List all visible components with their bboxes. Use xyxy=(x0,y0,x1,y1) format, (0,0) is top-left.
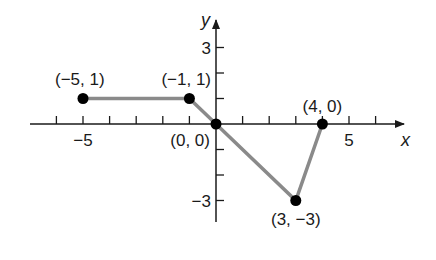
x-tick-label: 5 xyxy=(344,131,353,150)
x-tick-label: −5 xyxy=(73,131,92,150)
point-label: (−5, 1) xyxy=(55,70,105,89)
axes: x y xyxy=(30,10,411,222)
point-label: (0, 0) xyxy=(170,131,210,150)
x-axis-label: x xyxy=(400,130,411,150)
data-point xyxy=(184,93,195,104)
data-point xyxy=(78,93,89,104)
data-point xyxy=(317,119,328,130)
point-label: (3, −3) xyxy=(271,210,321,229)
data-point xyxy=(211,119,222,130)
point-label: (−1, 1) xyxy=(161,70,211,89)
y-axis-label: y xyxy=(199,10,211,30)
y-tick-label: −3 xyxy=(192,192,211,211)
graph: x y −553−3 (−5, 1)(−1, 1)(0, 0)(3, −3)(4… xyxy=(0,0,436,260)
point-label: (4, 0) xyxy=(303,97,343,116)
y-tick-label: 3 xyxy=(202,39,211,58)
data-point xyxy=(290,195,301,206)
